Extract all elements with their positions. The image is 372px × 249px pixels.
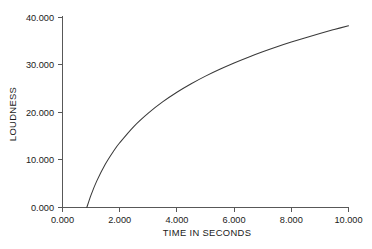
loudness-vs-time-chart: 0.000 10.000 20.000 30.000 40.000 0.000 … — [0, 0, 372, 249]
chart-figure: 0.000 10.000 20.000 30.000 40.000 0.000 … — [0, 0, 372, 249]
chart-background — [0, 0, 372, 249]
x-tick-label: 2.000 — [108, 215, 131, 225]
x-tick-label: 10.000 — [334, 215, 362, 225]
x-axis-title: TIME IN SECONDS — [163, 227, 252, 238]
y-tick-label: 20.000 — [26, 108, 54, 118]
x-tick-label: 4.000 — [165, 215, 188, 225]
y-tick-label: 0.000 — [31, 203, 54, 213]
x-tick-label: 8.000 — [280, 215, 303, 225]
y-tick-label: 30.000 — [26, 60, 54, 70]
y-axis-title: LOUDNESS — [7, 87, 18, 141]
y-tick-label: 40.000 — [26, 13, 54, 23]
x-tick-label: 0.000 — [51, 215, 74, 225]
y-tick-label: 10.000 — [26, 155, 54, 165]
x-tick-label: 6.000 — [223, 215, 246, 225]
